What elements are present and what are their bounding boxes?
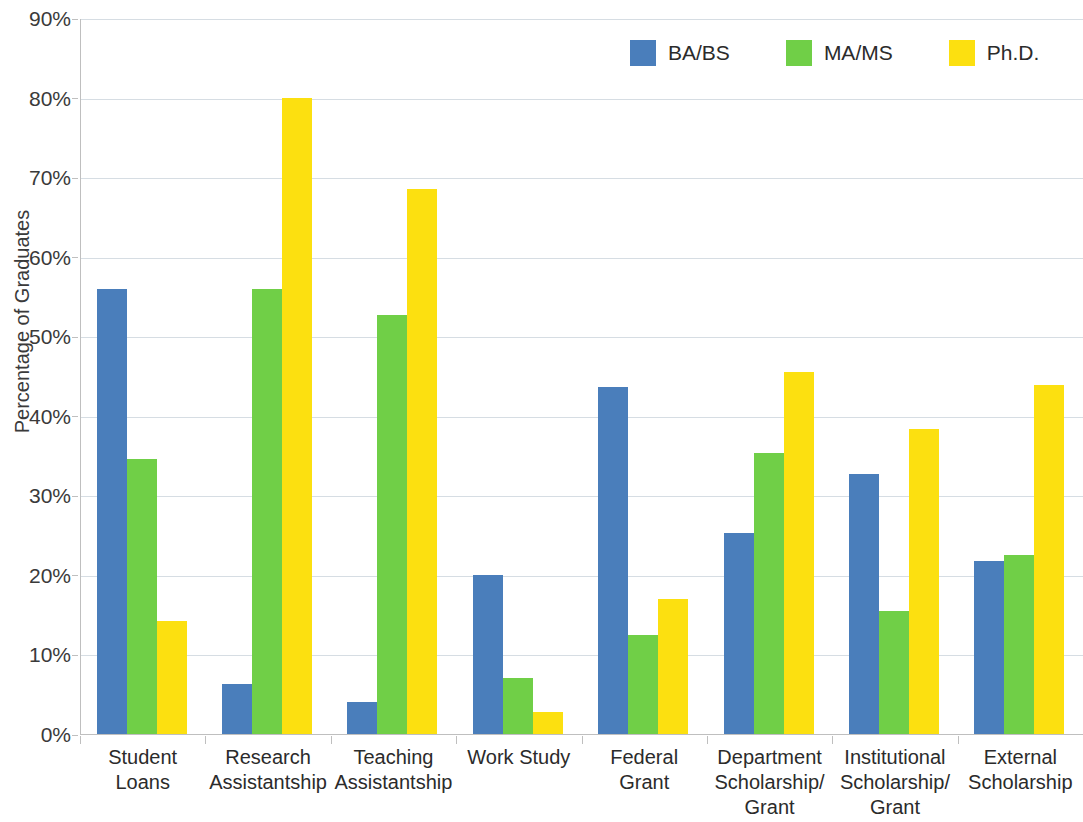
x-axis-category-label: FederalGrant bbox=[582, 745, 707, 795]
bar-ba-bs[interactable] bbox=[598, 387, 628, 734]
y-axis-tickmark bbox=[72, 98, 78, 99]
bar-ph-d[interactable] bbox=[282, 98, 312, 734]
bar-ba-bs[interactable] bbox=[347, 702, 377, 734]
y-axis-tickmark bbox=[72, 178, 78, 179]
legend-item[interactable]: MA/MS bbox=[786, 40, 893, 66]
x-axis-tickmark bbox=[582, 736, 583, 744]
bar-ph-d[interactable] bbox=[784, 372, 814, 734]
x-axis-category-label-line: Assistantship bbox=[205, 770, 330, 795]
bar-group bbox=[97, 19, 187, 734]
y-axis-tickmark bbox=[72, 655, 78, 656]
bar-ph-d[interactable] bbox=[157, 621, 187, 734]
y-axis-tick-label: 50% bbox=[1, 326, 71, 347]
x-axis-category-label-line: Grant bbox=[582, 770, 707, 795]
y-axis-tick-label: 80% bbox=[1, 88, 71, 109]
bar-ph-d[interactable] bbox=[407, 189, 437, 734]
x-axis-category-label-line: Department bbox=[707, 745, 832, 770]
y-axis-tick-label: 60% bbox=[1, 247, 71, 268]
x-axis-tickmark bbox=[80, 736, 81, 744]
bar-ma-ms[interactable] bbox=[754, 453, 784, 734]
bar-ph-d[interactable] bbox=[658, 599, 688, 734]
legend-item[interactable]: BA/BS bbox=[630, 40, 730, 66]
x-axis-tickmark bbox=[707, 736, 708, 744]
bar-ma-ms[interactable] bbox=[628, 635, 658, 734]
y-axis-tick-label: 0% bbox=[1, 724, 71, 745]
x-axis-category-label: Work Study bbox=[456, 745, 581, 770]
x-axis-category-label: InstitutionalScholarship/Grant bbox=[832, 745, 957, 820]
bar-group bbox=[473, 19, 563, 734]
x-axis-category-label-line: Grant bbox=[832, 795, 957, 820]
bar-ba-bs[interactable] bbox=[97, 289, 127, 735]
y-axis-tick-label: 30% bbox=[1, 485, 71, 506]
x-axis-category-label: TeachingAssistantship bbox=[331, 745, 456, 795]
x-axis-tickmark bbox=[832, 736, 833, 744]
legend-label: MA/MS bbox=[824, 41, 893, 65]
bar-ba-bs[interactable] bbox=[849, 474, 879, 734]
bar-group bbox=[849, 19, 939, 734]
bar-ba-bs[interactable] bbox=[974, 561, 1004, 734]
x-axis-category-label-line: Teaching bbox=[331, 745, 456, 770]
legend-item[interactable]: Ph.D. bbox=[949, 40, 1040, 66]
y-axis-tick-label: 10% bbox=[1, 644, 71, 665]
bar-ma-ms[interactable] bbox=[252, 289, 282, 735]
bar-ma-ms[interactable] bbox=[503, 678, 533, 734]
bar-ba-bs[interactable] bbox=[473, 575, 503, 734]
bar-ba-bs[interactable] bbox=[724, 533, 754, 734]
x-axis-category-label-line: Scholarship/ bbox=[832, 770, 957, 795]
bar-group bbox=[598, 19, 688, 734]
y-axis-tickmark bbox=[72, 19, 78, 20]
x-axis-category-label-line: Scholarship bbox=[958, 770, 1083, 795]
legend-swatch-icon bbox=[630, 40, 656, 66]
x-axis-category-label: ResearchAssistantship bbox=[205, 745, 330, 795]
x-axis-category-label: Student Loans bbox=[80, 745, 205, 795]
x-axis-category-label-line: Federal bbox=[582, 745, 707, 770]
bar-ph-d[interactable] bbox=[909, 429, 939, 734]
bar-ma-ms[interactable] bbox=[377, 315, 407, 734]
x-axis-category-label-line: Scholarship/ bbox=[707, 770, 832, 795]
y-axis-tick-label: 70% bbox=[1, 167, 71, 188]
bar-chart: Percentage of Graduates 0%10%20%30%40%50… bbox=[0, 0, 1083, 822]
legend-swatch-icon bbox=[949, 40, 975, 66]
x-axis-category-label-line: Assistantship bbox=[331, 770, 456, 795]
x-axis-category-label: ExternalScholarship bbox=[958, 745, 1083, 795]
bar-ma-ms[interactable] bbox=[1004, 555, 1034, 734]
clipped-title-strip bbox=[0, 0, 1083, 6]
y-axis-tickmark bbox=[72, 337, 78, 338]
bar-ma-ms[interactable] bbox=[879, 611, 909, 734]
y-axis-tickmark bbox=[72, 416, 78, 417]
y-axis-tickmark bbox=[72, 257, 78, 258]
bar-ba-bs[interactable] bbox=[222, 684, 252, 734]
x-axis-tickmark bbox=[331, 736, 332, 744]
y-axis-tickmark bbox=[72, 496, 78, 497]
bar-group bbox=[347, 19, 437, 734]
x-axis-category-label-line: Institutional bbox=[832, 745, 957, 770]
bar-ph-d[interactable] bbox=[1034, 385, 1064, 734]
x-axis-tickmark bbox=[958, 736, 959, 744]
x-axis-category-label-line: Research bbox=[205, 745, 330, 770]
bar-group bbox=[222, 19, 312, 734]
y-axis-tick-label: 90% bbox=[1, 8, 71, 29]
chart-legend: BA/BSMA/MSPh.D. bbox=[630, 40, 1039, 66]
x-axis-category-label-line: Grant bbox=[707, 795, 832, 820]
x-axis-tickmark bbox=[205, 736, 206, 744]
x-axis-category-label-line: Student Loans bbox=[80, 745, 205, 795]
bar-ma-ms[interactable] bbox=[127, 459, 157, 734]
y-axis-tick-label: 40% bbox=[1, 406, 71, 427]
x-axis-category-label-line: External bbox=[958, 745, 1083, 770]
bar-group bbox=[974, 19, 1064, 734]
x-axis-category-label: DepartmentScholarship/Grant bbox=[707, 745, 832, 820]
x-axis-category-label-line: Work Study bbox=[456, 745, 581, 770]
legend-label: BA/BS bbox=[668, 41, 730, 65]
legend-label: Ph.D. bbox=[987, 41, 1040, 65]
bar-ph-d[interactable] bbox=[533, 712, 563, 734]
x-axis-tickmark bbox=[456, 736, 457, 744]
bar-group bbox=[724, 19, 814, 734]
y-axis-tickmark bbox=[72, 575, 78, 576]
legend-swatch-icon bbox=[786, 40, 812, 66]
y-axis-tick-label: 20% bbox=[1, 565, 71, 586]
plot-area bbox=[80, 19, 1083, 735]
y-axis-tickmark bbox=[72, 735, 78, 736]
